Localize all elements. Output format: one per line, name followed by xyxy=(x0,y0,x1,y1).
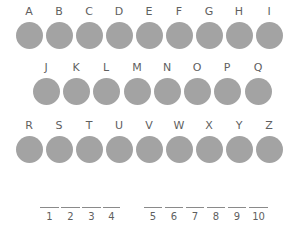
answer-blank-3[interactable]: 3 xyxy=(82,207,101,223)
letter-circle[interactable] xyxy=(93,78,120,105)
letter-button-j[interactable]: J xyxy=(32,61,60,105)
letter-circle[interactable] xyxy=(46,22,73,49)
letter-circle[interactable] xyxy=(184,78,211,105)
letter-label: I xyxy=(255,5,283,18)
blank-line[interactable] xyxy=(144,207,162,208)
blank-number: 8 xyxy=(207,211,225,223)
letter-label: R xyxy=(15,119,43,132)
letter-label: L xyxy=(92,61,120,74)
answer-blank-10[interactable]: 10 xyxy=(249,207,268,223)
letter-label: K xyxy=(62,61,90,74)
letter-circle[interactable] xyxy=(154,78,181,105)
blank-number: 2 xyxy=(61,211,80,223)
letter-label: H xyxy=(225,5,253,18)
blank-line[interactable] xyxy=(228,207,246,208)
letter-label: Q xyxy=(244,61,272,74)
letter-label: T xyxy=(75,119,103,132)
letter-button-w[interactable]: W xyxy=(165,119,193,163)
letter-button-m[interactable]: M xyxy=(123,61,151,105)
letter-circle[interactable] xyxy=(46,136,73,163)
letter-button-g[interactable]: G xyxy=(195,5,223,49)
answer-blank-6[interactable]: 6 xyxy=(165,207,183,223)
blank-number: 6 xyxy=(165,211,183,223)
letter-circle[interactable] xyxy=(256,136,283,163)
letter-button-c[interactable]: C xyxy=(75,5,103,49)
letter-button-x[interactable]: X xyxy=(195,119,223,163)
letter-circle[interactable] xyxy=(196,136,223,163)
letter-circle[interactable] xyxy=(226,22,253,49)
blank-line[interactable] xyxy=(61,207,80,208)
letter-circle[interactable] xyxy=(33,78,60,105)
answer-blank-8[interactable]: 8 xyxy=(207,207,225,223)
letter-label: N xyxy=(153,61,181,74)
blank-number: 4 xyxy=(103,211,120,223)
letter-circle[interactable] xyxy=(256,22,283,49)
letter-button-v[interactable]: V xyxy=(135,119,163,163)
letter-button-i[interactable]: I xyxy=(255,5,283,49)
letter-label: Y xyxy=(225,119,253,132)
blank-line[interactable] xyxy=(40,207,59,208)
letter-circle[interactable] xyxy=(214,78,241,105)
blank-number: 1 xyxy=(40,211,59,223)
blank-line[interactable] xyxy=(82,207,101,208)
blank-number: 9 xyxy=(228,211,246,223)
letter-label: P xyxy=(213,61,241,74)
letter-button-a[interactable]: A xyxy=(15,5,43,49)
letter-button-r[interactable]: R xyxy=(15,119,43,163)
letter-button-y[interactable]: Y xyxy=(225,119,253,163)
letter-button-p[interactable]: P xyxy=(213,61,241,105)
answer-blank-9[interactable]: 9 xyxy=(228,207,246,223)
blank-number: 7 xyxy=(186,211,204,223)
letter-button-b[interactable]: B xyxy=(45,5,73,49)
letter-button-d[interactable]: D xyxy=(105,5,133,49)
letter-circle[interactable] xyxy=(136,136,163,163)
blank-line[interactable] xyxy=(207,207,225,208)
answer-blank-7[interactable]: 7 xyxy=(186,207,204,223)
letter-circle[interactable] xyxy=(226,136,253,163)
letter-label: E xyxy=(135,5,163,18)
answer-blank-4[interactable]: 4 xyxy=(103,207,120,223)
letter-label: X xyxy=(195,119,223,132)
letter-circle[interactable] xyxy=(76,136,103,163)
letter-circle[interactable] xyxy=(106,22,133,49)
blank-line[interactable] xyxy=(103,207,120,208)
blank-line[interactable] xyxy=(165,207,183,208)
letter-label: W xyxy=(165,119,193,132)
letter-button-f[interactable]: F xyxy=(165,5,193,49)
blank-number: 5 xyxy=(144,211,162,223)
letter-button-o[interactable]: O xyxy=(183,61,211,105)
letter-circle[interactable] xyxy=(166,22,193,49)
answer-blank-1[interactable]: 1 xyxy=(40,207,59,223)
letter-circle[interactable] xyxy=(166,136,193,163)
blank-number: 10 xyxy=(249,211,268,223)
letter-button-l[interactable]: L xyxy=(92,61,120,105)
letter-circle[interactable] xyxy=(63,78,90,105)
blank-line[interactable] xyxy=(249,207,268,208)
answer-blank-5[interactable]: 5 xyxy=(144,207,162,223)
letter-circle[interactable] xyxy=(76,22,103,49)
letter-circle[interactable] xyxy=(16,22,43,49)
letter-circle[interactable] xyxy=(245,78,272,105)
letter-button-q[interactable]: Q xyxy=(244,61,272,105)
letter-button-s[interactable]: S xyxy=(45,119,73,163)
letter-button-n[interactable]: N xyxy=(153,61,181,105)
letter-label: V xyxy=(135,119,163,132)
letter-label: Z xyxy=(255,119,283,132)
letter-button-h[interactable]: H xyxy=(225,5,253,49)
letter-circle[interactable] xyxy=(136,22,163,49)
letter-circle[interactable] xyxy=(124,78,151,105)
letter-circle[interactable] xyxy=(196,22,223,49)
letter-circle[interactable] xyxy=(16,136,43,163)
letter-label: J xyxy=(32,61,60,74)
letter-button-t[interactable]: T xyxy=(75,119,103,163)
letter-button-k[interactable]: K xyxy=(62,61,90,105)
letter-button-z[interactable]: Z xyxy=(255,119,283,163)
letter-label: O xyxy=(183,61,211,74)
answer-blank-2[interactable]: 2 xyxy=(61,207,80,223)
blank-line[interactable] xyxy=(186,207,204,208)
letter-button-e[interactable]: E xyxy=(135,5,163,49)
letter-label: A xyxy=(15,5,43,18)
letter-circle[interactable] xyxy=(106,136,133,163)
blank-number: 3 xyxy=(82,211,101,223)
letter-button-u[interactable]: U xyxy=(105,119,133,163)
